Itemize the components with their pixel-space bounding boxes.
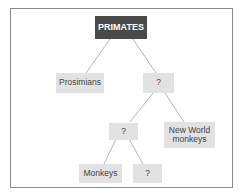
node-unknown-level2: ? (109, 123, 138, 140)
edge-root-prosimians (86, 39, 110, 73)
node-unknown-level1: ? (143, 73, 174, 93)
edge-unknown1-newworld (165, 93, 184, 122)
node-new-world-monkeys: New World monkeys (164, 122, 215, 148)
edge-unknown2-monkeys (104, 139, 116, 164)
edge-unknown1-unknown2 (130, 93, 153, 122)
edge-root-unknown1 (133, 39, 156, 73)
node-unknown-level3: ? (133, 164, 162, 183)
edge-unknown2-unknown3 (129, 139, 143, 164)
node-monkeys: Monkeys (79, 164, 122, 183)
node-primates: PRIMATES (95, 16, 147, 39)
node-prosimians: Prosimians (56, 73, 104, 93)
